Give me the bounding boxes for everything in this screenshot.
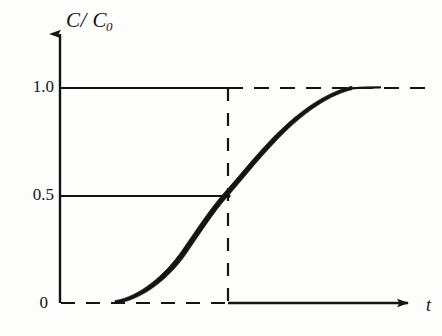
y-tick-label-1.0: 1.0 — [6, 77, 54, 97]
y-axis-label-denominator: C — [93, 8, 108, 32]
y-tick-label-origin: 0 — [6, 293, 48, 313]
y-axis-label: C/ C0 — [66, 8, 113, 35]
y-axis-label-numerator: C/ — [66, 8, 87, 32]
x-axis-label: t — [426, 295, 431, 316]
y-tick-label-0.5: 0.5 — [6, 185, 54, 205]
y-axis-label-subscript: 0 — [106, 19, 113, 34]
curve-asymptote-merge — [350, 87, 380, 88]
inflection-point-marker — [226, 194, 230, 198]
plot-canvas — [0, 0, 442, 336]
chart-figure: C/ C0 t 1.0 0.5 0 — [0, 0, 442, 336]
breakthrough-curve — [115, 86, 352, 303]
